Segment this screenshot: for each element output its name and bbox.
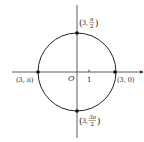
point-right [113, 70, 117, 74]
point-bottom [75, 109, 79, 113]
point-top-label: ( 3 , π 2 ) [79, 16, 99, 30]
point-right-label: (3, 0) [117, 76, 135, 84]
polar-diagram: O 1 (3, π) (3, 0) ( 3 , π 2 ) ( 3 , 3π 2… [0, 0, 144, 142]
svg-text:π: π [89, 16, 94, 22]
svg-text:,: , [86, 117, 88, 125]
tick-label: 1 [87, 76, 91, 84]
svg-text:2: 2 [90, 23, 94, 29]
point-bottom-label: ( 3 , 3π 2 ) [79, 114, 101, 128]
svg-text:): ) [95, 18, 99, 28]
svg-text:3π: 3π [89, 114, 96, 120]
svg-text:): ) [97, 116, 101, 126]
svg-text:2: 2 [91, 121, 95, 127]
point-left-label: (3, π) [16, 76, 34, 84]
point-top [75, 31, 79, 35]
point-left [36, 70, 40, 74]
svg-text:,: , [86, 19, 88, 27]
origin-label: O [68, 74, 75, 83]
